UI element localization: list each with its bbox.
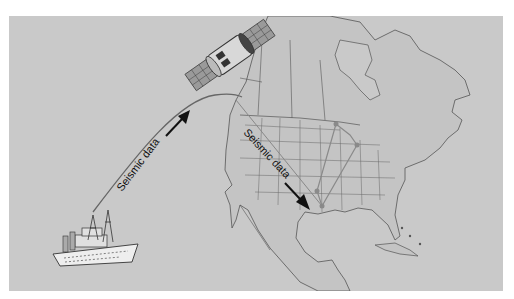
uplink-path — [93, 94, 242, 212]
diagram-panel: Seismic data Seismic data — [9, 16, 503, 291]
uplink-label: Seismic data — [114, 135, 162, 193]
ship-icon — [53, 210, 138, 266]
